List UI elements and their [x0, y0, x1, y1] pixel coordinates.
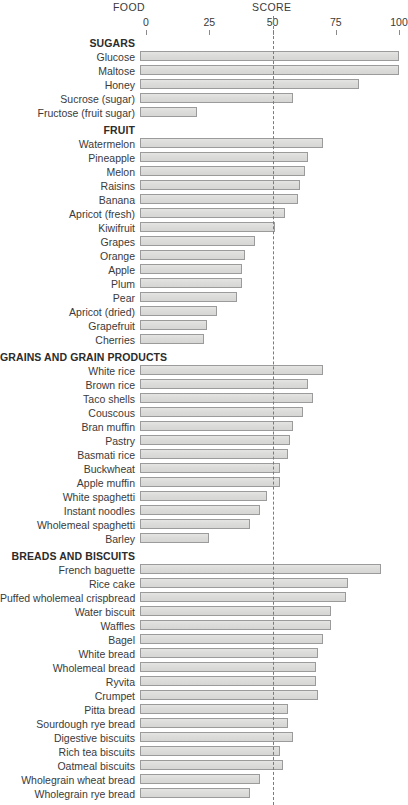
bar-track [140, 675, 408, 689]
food-label: Brown rice [0, 379, 140, 392]
food-label: Taco shells [0, 393, 140, 406]
bar-track [140, 661, 408, 675]
chart-row: Puffed wholemeal crispbread [0, 591, 408, 605]
food-label: Watermelon [0, 138, 140, 151]
group-header-track [140, 549, 408, 563]
bar-track [140, 633, 408, 647]
group-header-track [140, 123, 408, 137]
value-bar [140, 732, 293, 742]
food-label: Sucrose (sugar) [0, 93, 140, 106]
food-label: Puffed wholemeal crispbread [0, 592, 140, 605]
bar-track [140, 207, 408, 221]
value-bar [140, 194, 298, 204]
score-column-header: SCORE [252, 1, 291, 13]
food-label: Pastry [0, 435, 140, 448]
chart-row: Bran muffin [0, 420, 408, 434]
bar-track [140, 406, 408, 420]
food-label: Grapefruit [0, 320, 140, 333]
food-label: Fructose (fruit sugar) [0, 107, 140, 120]
value-bar [140, 278, 242, 288]
value-bar [140, 690, 318, 700]
value-bar [140, 449, 288, 459]
group-label: BREADS AND BISCUITS [0, 550, 140, 563]
food-label: Pitta bread [0, 704, 140, 717]
food-label: Plum [0, 278, 140, 291]
food-label: Honey [0, 79, 140, 92]
food-label: Water biscuit [0, 606, 140, 619]
chart-row: Pear [0, 291, 408, 305]
bar-track [140, 532, 408, 546]
chart-row: Water biscuit [0, 605, 408, 619]
food-label: Pineapple [0, 152, 140, 165]
food-label: Wholemeal spaghetti [0, 519, 140, 532]
bar-track [140, 263, 408, 277]
food-label: Crumpet [0, 690, 140, 703]
bar-track [140, 78, 408, 92]
chart-plot-area: SUGARSGlucoseMaltoseHoneySucrose (sugar)… [0, 36, 408, 801]
value-bar [140, 704, 288, 714]
food-label: Ryvita [0, 676, 140, 689]
group-header-row: SUGARS [0, 36, 408, 50]
food-label: Pear [0, 292, 140, 305]
bar-track [140, 392, 408, 406]
food-label: Grapes [0, 236, 140, 249]
bar-track [140, 179, 408, 193]
chart-row: Instant noodles [0, 504, 408, 518]
chart-row: Banana [0, 193, 408, 207]
chart-row: Pitta bread [0, 703, 408, 717]
value-bar [140, 533, 209, 543]
food-column-header: FOOD [113, 1, 145, 13]
axis-tick-label: 0 [143, 16, 149, 28]
chart-row: Wholegrain rye bread [0, 787, 408, 801]
chart-row: Rice cake [0, 577, 408, 591]
group-header-track [140, 36, 408, 50]
value-bar [140, 138, 323, 148]
chart-row: Apple [0, 263, 408, 277]
value-bar [140, 505, 260, 515]
chart-row: Pastry [0, 434, 408, 448]
chart-row: Couscous [0, 406, 408, 420]
food-label: Apricot (dried) [0, 306, 140, 319]
bar-track [140, 291, 408, 305]
food-label: Apple [0, 264, 140, 277]
food-label: Waffles [0, 620, 140, 633]
axis-tick-label: 25 [203, 16, 215, 28]
bar-track [140, 364, 408, 378]
bar-track [140, 504, 408, 518]
chart-row: Apricot (dried) [0, 305, 408, 319]
axis-tick-label: 100 [390, 16, 408, 28]
value-bar [140, 477, 280, 487]
chart-row: Apricot (fresh) [0, 207, 408, 221]
bar-track [140, 490, 408, 504]
value-bar [140, 292, 237, 302]
value-bar [140, 620, 331, 630]
bar-track [140, 165, 408, 179]
bar-track [140, 689, 408, 703]
food-label: Rice cake [0, 578, 140, 591]
chart-row: Digestive biscuits [0, 731, 408, 745]
bar-track [140, 305, 408, 319]
group-label: SUGARS [0, 37, 140, 50]
bar-track [140, 221, 408, 235]
value-bar [140, 264, 242, 274]
value-bar [140, 606, 331, 616]
chart-row: Wholemeal bread [0, 661, 408, 675]
bar-track [140, 476, 408, 490]
value-bar [140, 760, 283, 770]
group-header-row: FRUIT [0, 123, 408, 137]
axis-tick-mark [146, 30, 147, 35]
food-label: Bran muffin [0, 421, 140, 434]
chart-row: Oatmeal biscuits [0, 759, 408, 773]
value-bar [140, 236, 255, 246]
value-bar [140, 393, 313, 403]
chart-row: Basmati rice [0, 448, 408, 462]
bar-track [140, 759, 408, 773]
bar-track [140, 277, 408, 291]
food-label: French baguette [0, 564, 140, 577]
bar-track [140, 605, 408, 619]
value-bar [140, 334, 204, 344]
value-bar [140, 648, 318, 658]
food-label: Rich tea biscuits [0, 746, 140, 759]
chart-row: Grapes [0, 235, 408, 249]
